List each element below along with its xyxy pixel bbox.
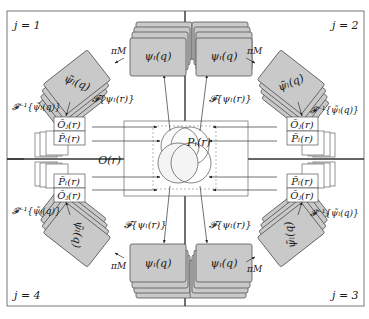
quadrant-label: j = 4 (11, 289, 41, 302)
probe-update-label: P̄ₗ(r) (290, 133, 313, 144)
forward-label: 𝓕{ψₗ(r)} (124, 219, 167, 230)
projection-label: πM (110, 261, 127, 271)
inverse-label: 𝓕⁻¹{ψ̃ₗ(q)} (12, 102, 61, 112)
quadrant-label: j = 1 (11, 19, 41, 32)
probe-label: Pₗ(r) (186, 136, 211, 149)
update-stack: Ōⱼ(r) P̄ₗ(r) (35, 117, 85, 157)
stack-label: ψₗ(q) (211, 50, 238, 63)
update-stack: Ōⱼ(r) P̄ₗ(r) (287, 117, 335, 157)
probe-update-label: P̄ₗ(r) (57, 176, 80, 187)
projection-label: πM (110, 46, 127, 56)
stack-label: ψₗ(q) (145, 257, 172, 270)
projection-label: πM (246, 46, 263, 56)
stack-label: ψₗ(q) (145, 50, 172, 63)
forward-label: 𝓕{ψₗ(r)} (92, 93, 135, 104)
measured-stack: ψₗ(q) (192, 22, 252, 76)
quadrant-label: j = 3 (329, 289, 359, 302)
object-update-label: Ōⱼ(r) (57, 119, 81, 130)
inverse-label: 𝓕⁻¹{ψ̃ₗ(q)} (12, 206, 61, 216)
object-update-label: Ōⱼ(r) (290, 190, 314, 201)
ptychography-diagram: Pₗ(r) O(r) j = 1 ψₗ(q) (0, 0, 369, 319)
update-stack: P̄ₗ(r) Ōⱼ(r) (287, 162, 335, 202)
measured-stack: ψₗ(q) (130, 22, 192, 76)
projection-label: πM (246, 264, 263, 274)
measured-stack: ψₗ(q) (190, 244, 252, 298)
measured-stack: ψₗ(q) (130, 244, 192, 298)
central-object-box: Pₗ(r) O(r) (98, 121, 248, 196)
object-update-label: Ōⱼ(r) (57, 190, 81, 201)
quadrant-label: j = 2 (329, 19, 359, 32)
inverse-label: 𝓕⁻¹{ψ̃ₗ(q)} (310, 105, 359, 115)
inverse-label: 𝓕⁻¹{ψ̃ₗ(q)} (310, 208, 359, 218)
update-stack: P̄ₗ(r) Ōⱼ(r) (35, 162, 85, 202)
forward-label: 𝓕{ψₗ(r)} (209, 219, 252, 230)
object-label: O(r) (98, 154, 121, 167)
stack-label: ψₗ(q) (211, 257, 238, 270)
object-update-label: Ōⱼ(r) (290, 119, 314, 130)
probe-update-label: P̄ₗ(r) (57, 133, 80, 144)
forward-label: 𝓕{ψₗ(r)} (209, 93, 252, 104)
probe-update-label: P̄ₗ(r) (290, 176, 313, 187)
